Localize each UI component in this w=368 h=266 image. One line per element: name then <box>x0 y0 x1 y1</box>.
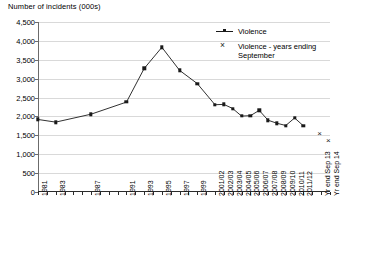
x-tick-label: 2010/11 <box>298 171 305 196</box>
data-point <box>275 122 278 125</box>
x-tick-label: 2007/08 <box>271 171 278 196</box>
x-tick-mark <box>38 192 39 195</box>
chart-legend: Violence×Violence - years ending Septemb… <box>216 27 316 66</box>
x-tick-mark <box>126 192 127 195</box>
x-tick-label: 2011/12 <box>306 171 313 196</box>
data-point <box>266 119 269 122</box>
x-tick-mark <box>162 192 163 195</box>
legend-item-label: Violence - years ending September <box>238 42 316 61</box>
y-tick-label: 1,500 <box>16 131 35 140</box>
x-tick-label: 2006/07 <box>262 171 269 196</box>
y-tick-label: 4,000 <box>16 36 35 45</box>
data-point <box>160 46 163 49</box>
x-tick-label: 1987 <box>94 180 101 196</box>
y-tick-label: 2,500 <box>16 93 35 102</box>
x-tick-label: 2004/05 <box>245 171 252 196</box>
chart-container: Number of incidents (000s) 05001,0001,50… <box>0 0 368 266</box>
y-tick-label: 500 <box>22 169 35 178</box>
data-point <box>240 114 243 117</box>
x-tick-label: 1981 <box>41 180 48 196</box>
y-tick-label: 3,000 <box>16 74 35 83</box>
x-tick-label: Yr end Sep 13 <box>324 151 331 196</box>
y-tick-label: 2,000 <box>16 112 35 121</box>
data-point <box>284 124 287 127</box>
y-tick-label: 4,500 <box>16 18 35 27</box>
x-tick-label: 1999 <box>200 180 207 196</box>
x-tick-label: 2003/04 <box>236 171 243 196</box>
data-point <box>302 124 305 127</box>
y-tick-label: 1,000 <box>16 150 35 159</box>
x-tick-label: Yr end Sep 14 <box>333 151 340 196</box>
data-point <box>125 100 128 103</box>
data-point <box>89 112 92 115</box>
data-point <box>222 103 225 106</box>
y-tick-label: 3,500 <box>16 55 35 64</box>
x-tick-label: 2005/06 <box>253 171 260 196</box>
x-tick-mark <box>144 192 145 195</box>
legend-item-label: Violence <box>238 27 316 37</box>
x-tick-label: 2009/10 <box>289 171 296 196</box>
data-point <box>249 114 252 117</box>
x-tick-label: 1997 <box>183 180 190 196</box>
x-tick-label: 2001/02 <box>218 171 225 196</box>
data-point <box>36 118 39 121</box>
x-tick-label: 2008/09 <box>280 171 287 196</box>
legend-item: ×Violence - years ending September <box>216 42 316 61</box>
data-point: × <box>317 130 322 138</box>
x-tick-mark <box>180 192 181 195</box>
data-point <box>231 107 234 110</box>
x-tick-label: 1993 <box>147 180 154 196</box>
y-axis-title: Number of incidents (000s) <box>8 2 101 11</box>
x-tick-mark <box>56 192 57 195</box>
data-point <box>178 69 181 72</box>
data-point <box>142 67 145 70</box>
x-tick-mark <box>321 192 322 195</box>
x-tick-label: 1983 <box>59 180 66 196</box>
x-tick-mark <box>82 192 83 195</box>
x-tick-mark <box>215 192 216 195</box>
data-point: × <box>326 137 331 145</box>
data-point <box>213 103 216 106</box>
x-tick-label: 1991 <box>129 180 136 196</box>
data-point <box>196 82 199 85</box>
data-point <box>258 109 261 112</box>
x-tick-mark <box>197 192 198 195</box>
legend-square-icon <box>223 29 227 33</box>
x-tick-mark <box>73 192 74 195</box>
data-point <box>293 116 296 119</box>
x-tick-mark <box>118 192 119 195</box>
legend-item: Violence <box>216 27 316 37</box>
x-tick-mark <box>109 192 110 195</box>
x-tick-mark <box>91 192 92 195</box>
x-tick-label: 1995 <box>165 180 172 196</box>
data-point <box>54 120 57 123</box>
x-tick-label: 2002/03 <box>227 171 234 196</box>
legend-x-icon: × <box>220 41 225 51</box>
